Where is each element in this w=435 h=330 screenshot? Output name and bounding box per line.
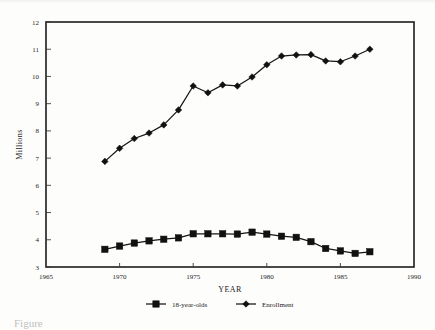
data-point — [322, 245, 328, 251]
data-point — [278, 233, 284, 239]
x-tick-label: 1990 — [407, 273, 422, 281]
series-2 — [102, 46, 374, 165]
legend-label: Enrollment — [262, 301, 294, 309]
data-point — [219, 231, 225, 237]
x-axis-title: YEAR — [218, 285, 242, 294]
x-tick-label: 1965 — [39, 273, 54, 281]
y-tick-label: 12 — [32, 19, 40, 27]
legend-item-1: 18-year-olds — [146, 301, 208, 309]
legend-label: 18-year-olds — [172, 301, 208, 309]
y-tick-label: 8 — [36, 127, 40, 135]
data-point — [278, 53, 285, 60]
data-point — [352, 250, 358, 256]
series-group — [102, 46, 374, 257]
y-tick-label: 7 — [36, 155, 40, 163]
data-point — [308, 51, 315, 58]
figure-caption-strip: Figure — [0, 316, 435, 330]
data-point — [234, 83, 241, 90]
data-point — [367, 249, 373, 255]
y-tick-label: 3 — [36, 264, 40, 272]
data-point — [190, 83, 197, 90]
x-tick-label: 1985 — [333, 273, 348, 281]
data-point — [146, 130, 153, 137]
data-point — [337, 58, 344, 65]
data-point — [205, 231, 211, 237]
series-1 — [102, 229, 373, 257]
y-tick-label: 5 — [36, 209, 40, 217]
chart-area: 3456789101112196519701975198019851990YEA… — [0, 0, 435, 330]
data-point — [190, 231, 196, 237]
series-line-2 — [105, 49, 370, 161]
data-point — [352, 53, 359, 60]
data-point — [308, 238, 314, 244]
data-point — [161, 236, 167, 242]
y-tick-label: 6 — [36, 182, 40, 190]
data-point — [175, 235, 181, 241]
y-tick-label: 11 — [32, 46, 39, 54]
data-point — [337, 248, 343, 254]
data-point — [234, 231, 240, 237]
data-point — [116, 243, 122, 249]
legend-marker-diamond — [243, 301, 250, 308]
data-point — [293, 234, 299, 240]
data-point — [293, 52, 300, 59]
figure-container: 3456789101112196519701975198019851990YEA… — [0, 0, 435, 330]
legend-marker-square — [153, 301, 159, 307]
data-point — [131, 240, 137, 246]
legend-item-2: Enrollment — [236, 301, 294, 309]
data-point — [102, 246, 108, 252]
data-point — [205, 89, 212, 96]
y-axis-title: Millions — [15, 129, 24, 159]
x-tick-label: 1975 — [186, 273, 201, 281]
x-tick-label: 1970 — [113, 273, 128, 281]
data-point — [249, 229, 255, 235]
figure-caption: Figure — [14, 317, 43, 329]
y-tick-label: 10 — [32, 73, 40, 81]
plot-frame — [46, 22, 414, 267]
line-chart: 3456789101112196519701975198019851990YEA… — [0, 0, 435, 330]
data-point — [146, 238, 152, 244]
data-point — [322, 58, 329, 65]
data-point — [131, 135, 138, 142]
data-point — [264, 231, 270, 237]
y-tick-label: 4 — [36, 236, 40, 244]
legend-group: 18-year-oldsEnrollment — [146, 301, 294, 309]
data-point — [219, 82, 226, 89]
x-tick-label: 1980 — [260, 273, 275, 281]
y-tick-label: 9 — [36, 100, 40, 108]
data-point — [367, 46, 374, 53]
